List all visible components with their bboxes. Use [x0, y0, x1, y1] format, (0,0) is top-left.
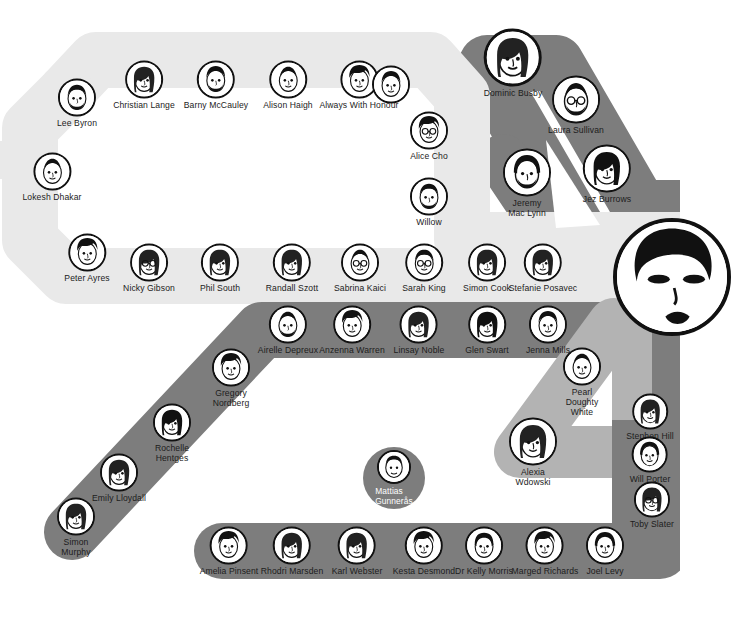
station-simon-cook[interactable]: Simon Cook: [463, 244, 511, 293]
station-randall-szott[interactable]: Randall Szott: [266, 244, 318, 293]
station-alexia-wdowski[interactable]: AlexiaWdowski: [509, 418, 557, 487]
avatar: [410, 178, 448, 216]
avatar: [210, 527, 248, 565]
avatar: [130, 244, 168, 282]
station-christian-lange[interactable]: Christian Lange: [113, 61, 175, 110]
station-laura-sullivan[interactable]: Laura Sullivan: [548, 76, 604, 135]
station-peter-ayres[interactable]: Peter Ayres: [64, 234, 109, 283]
avatar: [197, 61, 235, 99]
isolated-station-mattias[interactable]: Mattias Gunnerås: [363, 447, 425, 509]
station-label: Lee Byron: [57, 118, 97, 128]
station-amelia-pinsent[interactable]: Amelia Pinsent: [200, 527, 259, 576]
station-nicky-gibson[interactable]: Nicky Gibson: [123, 244, 175, 293]
station-anzenna-warren[interactable]: Anzenna Warren: [319, 306, 385, 355]
station-label: Emily Lloydall: [92, 493, 146, 503]
station-dr-kelly-morris[interactable]: Dr Kelly Morris: [455, 527, 513, 576]
station-emily-lloydall[interactable]: Emily Lloydall: [92, 454, 146, 503]
station-label: Stefanie Posavec: [509, 283, 577, 293]
station-barny-mccauley[interactable]: Barny McCauley: [184, 61, 248, 110]
station-pearl-doughty-white[interactable]: PearlDoughtyWhite: [563, 348, 601, 417]
station-lee-byron[interactable]: Lee Byron: [57, 79, 97, 128]
avatar: [465, 527, 503, 565]
station-joel-levy[interactable]: Joel Levy: [586, 527, 624, 576]
station-label: Laura Sullivan: [548, 125, 604, 135]
station-rhodri-marsden[interactable]: Rhodri Marsden: [261, 527, 324, 576]
station-alice-cho[interactable]: Alice Cho: [410, 112, 448, 161]
avatar: [400, 306, 438, 344]
station-label: AlexiaWdowski: [509, 467, 557, 487]
station-phil-south[interactable]: Phil South: [200, 244, 240, 293]
station-label: Karl Webster: [332, 566, 383, 576]
avatar: [212, 349, 250, 387]
station-willow[interactable]: Willow: [410, 178, 448, 227]
avatar: [153, 404, 191, 442]
station-label: Dr Kelly Morris: [455, 566, 513, 576]
station-label: Peter Ayres: [64, 273, 109, 283]
station-jez-burrows[interactable]: Jez Burrows: [583, 145, 631, 204]
station-stefanie-posavec[interactable]: Stefanie Posavec: [509, 244, 577, 293]
station-label: Jez Burrows: [583, 194, 631, 204]
station-toby-slater[interactable]: Toby Slater: [630, 482, 674, 529]
station-sarah-king[interactable]: Sarah King: [402, 244, 446, 293]
avatar: [552, 76, 600, 124]
station-kesta-desmond[interactable]: Kesta Desmond: [393, 527, 455, 576]
station-label: Randall Szott: [266, 283, 318, 293]
station-unnamed[interactable]: [372, 66, 410, 105]
station-label: Anzenna Warren: [319, 345, 385, 355]
station-gregory-nordberg[interactable]: GregoryNordberg: [212, 349, 250, 408]
station-karl-webster[interactable]: Karl Webster: [332, 527, 383, 576]
station-glen-swart[interactable]: Glen Swart: [465, 306, 509, 355]
avatar: [269, 61, 307, 99]
station-label: Amelia Pinsent: [200, 566, 259, 576]
station-stephen-hill[interactable]: Stephen Hill: [626, 394, 674, 441]
avatar: [632, 437, 668, 473]
avatar: [68, 234, 106, 272]
avatar: [563, 348, 601, 386]
station-label: Marged Richards: [512, 566, 579, 576]
avatar: [273, 527, 311, 565]
station-simon-murphy[interactable]: SimonMurphy: [57, 498, 95, 557]
station-label: Toby Slater: [630, 519, 674, 529]
avatar: [405, 244, 443, 282]
station-alison-haigh[interactable]: Alison Haigh: [263, 61, 312, 110]
station-sabrina-kaici[interactable]: Sabrina Kaici: [334, 244, 386, 293]
station-label: Kesta Desmond: [393, 566, 455, 576]
avatar: [509, 418, 557, 466]
avatar: [410, 112, 448, 150]
station-marged-richards[interactable]: Marged Richards: [512, 527, 579, 576]
station-label: Rhodri Marsden: [261, 566, 324, 576]
avatar: [333, 306, 371, 344]
avatar: [341, 244, 379, 282]
station-label: Barny McCauley: [184, 100, 248, 110]
avatar: [377, 450, 411, 484]
station-label: Lokesh Dhakar: [22, 192, 81, 202]
station-label: PearlDoughtyWhite: [563, 387, 601, 417]
avatar: [100, 454, 138, 492]
station-label: Linsay Noble: [394, 345, 445, 355]
avatar: [468, 306, 506, 344]
avatar: [529, 306, 567, 344]
avatar: [484, 29, 542, 87]
station-label: Dominic Busby: [484, 88, 543, 98]
avatar: [273, 244, 311, 282]
station-label: Willow: [410, 217, 448, 227]
station-label: GregoryNordberg: [212, 388, 250, 408]
avatar: [33, 153, 71, 191]
station-label: Nicky Gibson: [123, 283, 175, 293]
station-linsay-noble[interactable]: Linsay Noble: [394, 306, 445, 355]
avatar: [57, 498, 95, 536]
avatar: [586, 527, 624, 565]
station-dominic-busby[interactable]: Dominic Busby: [484, 29, 543, 98]
station-label: Airelle Depreux: [258, 345, 318, 355]
station-lokesh-dhakar[interactable]: Lokesh Dhakar: [22, 153, 81, 202]
station-airelle-depreux[interactable]: Airelle Depreux: [258, 306, 318, 355]
station-will-porter[interactable]: Will Porter: [630, 437, 671, 484]
station-rochelle-hentges[interactable]: RochelleHentges: [153, 404, 191, 463]
station-label: Joel Levy: [586, 566, 624, 576]
station-label: Christian Lange: [113, 100, 175, 110]
station-jeremy-mac-lynn[interactable]: JeremyMac Lynn: [503, 149, 551, 218]
main-portrait-hub: [613, 218, 731, 336]
station-label: Alison Haigh: [263, 100, 312, 110]
station-label: Sabrina Kaici: [334, 283, 386, 293]
